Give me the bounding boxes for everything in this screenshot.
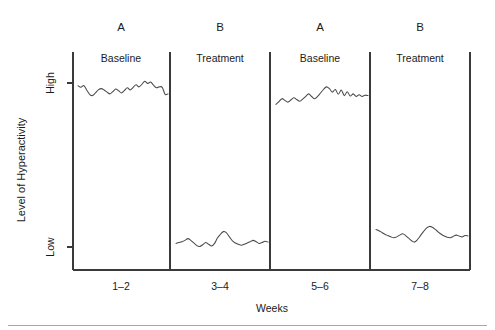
y-tick-label-low: Low (44, 237, 56, 257)
data-line-phase-1 (78, 81, 168, 95)
data-line-phase-3 (276, 87, 368, 104)
data-line-phase-2 (176, 232, 268, 247)
condition-label-2: B (216, 21, 224, 33)
x-tick-label-3: 5–6 (311, 280, 329, 292)
y-tick-label-high: High (44, 72, 56, 94)
x-tick-label-4: 7–8 (411, 280, 429, 292)
condition-label-3: A (316, 21, 324, 33)
x-tick-label-2: 3–4 (211, 280, 229, 292)
condition-label-4: B (416, 21, 424, 33)
abab-design-chart: Level of Hyperactivity High Low A B A B … (0, 0, 495, 330)
phase-label-2: Treatment (196, 52, 244, 64)
y-axis-label: Level of Hyperactivity (15, 117, 27, 222)
phase-label-1: Baseline (101, 52, 141, 64)
x-tick-label-1: 1–2 (112, 280, 130, 292)
phase-label-3: Baseline (300, 52, 340, 64)
condition-label-1: A (117, 21, 125, 33)
figure-container: Level of Hyperactivity High Low A B A B … (0, 0, 495, 330)
x-axis-label: Weeks (256, 302, 288, 314)
data-line-phase-4 (376, 226, 468, 242)
phase-label-4: Treatment (396, 52, 444, 64)
